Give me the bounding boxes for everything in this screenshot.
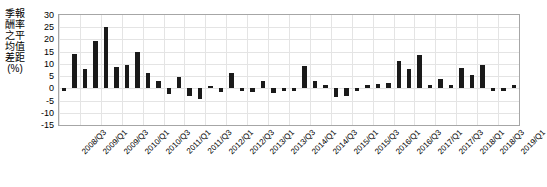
y-axis-tick: 15: [44, 47, 54, 56]
bar: [208, 86, 212, 88]
bar: [135, 52, 139, 88]
y-axis-tick: 30: [44, 11, 54, 20]
bar: [313, 81, 317, 89]
bar: [334, 88, 338, 97]
bar-series: [59, 15, 519, 125]
bar: [428, 85, 432, 88]
bar: [459, 68, 463, 88]
bar: [219, 88, 223, 92]
bar: [417, 55, 421, 89]
bar: [491, 88, 495, 91]
bar: [470, 75, 474, 89]
bar: [250, 88, 254, 92]
bar: [501, 88, 505, 90]
bar: [93, 41, 97, 88]
bar: [323, 85, 327, 88]
bar: [271, 88, 275, 93]
bar: [292, 88, 296, 90]
plot-area: [58, 14, 520, 126]
bar: [480, 65, 484, 88]
y-axis-tick: 0: [49, 84, 54, 93]
x-axis-tick-labels: 2008/Q32009/Q12009/Q32010/Q12010/Q32011/…: [58, 126, 520, 186]
y-axis-tick: 5: [49, 72, 54, 81]
bar: [261, 81, 265, 88]
y-axis-tick: -15: [41, 121, 54, 130]
bar: [449, 85, 453, 88]
bar: [438, 79, 442, 89]
y-axis-tick: 10: [44, 59, 54, 68]
y-axis-tick-labels: 302520151050-5-10-15: [26, 14, 56, 126]
bar: [198, 88, 202, 99]
bar: [177, 77, 181, 88]
y-axis-tick: 20: [44, 35, 54, 44]
y-axis-tick: 25: [44, 23, 54, 32]
bar: [125, 65, 129, 88]
bar: [355, 88, 359, 90]
bar: [282, 88, 286, 90]
bar: [512, 85, 516, 88]
bar: [365, 85, 369, 88]
bar: [146, 73, 150, 88]
bar: [114, 67, 118, 89]
bar: [167, 88, 171, 94]
y-axis-tick: -5: [46, 96, 54, 105]
bar: [344, 88, 348, 95]
bar: [397, 61, 401, 88]
bar: [407, 69, 411, 88]
bar: [376, 84, 380, 88]
bar: [62, 88, 66, 90]
bar: [156, 81, 160, 88]
bar: [386, 83, 390, 88]
bar: [240, 88, 244, 90]
bar: [187, 88, 191, 95]
bar: [229, 73, 233, 88]
bar: [72, 54, 76, 89]
bar: [104, 27, 108, 89]
bar: [83, 69, 87, 89]
y-axis-title: 季報酬率之平均值差距(%): [4, 8, 26, 180]
bar: [302, 66, 306, 89]
y-axis-tick: -10: [41, 108, 54, 117]
